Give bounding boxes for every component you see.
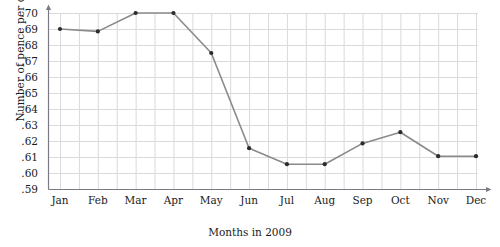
x-tick-label: May [200,194,223,206]
x-tick-label: Oct [391,194,410,206]
x-tick-label: Sep [352,194,372,206]
x-tick-label: Jun [240,194,258,206]
data-point-marker [436,154,440,158]
line-chart: Number of pence per dollar .70.69.68.67.… [0,0,500,247]
data-point-marker [474,154,478,158]
y-axis-arrow-icon [46,5,51,11]
x-tick-label: Apr [164,194,183,206]
data-point-marker [134,11,138,15]
data-point-marker [96,29,100,33]
data-point-marker [247,146,251,150]
data-point-marker [360,141,364,145]
x-tick-label: Jul [280,194,294,206]
data-point-marker [58,27,62,31]
x-tick-label: Feb [88,194,108,206]
x-axis-title: Months in 2009 [0,226,500,238]
x-tick-label: Jan [51,194,68,206]
data-point-marker [285,162,289,166]
plot-area [0,0,500,247]
x-tick-label: Mar [125,194,147,206]
data-point-marker [398,130,402,134]
data-point-marker [171,11,175,15]
x-tick-label: Nov [427,194,448,206]
data-point-marker [323,162,327,166]
x-tick-label: Dec [466,194,487,206]
data-point-marker [209,51,213,55]
horizontal-gridlines [48,14,478,190]
x-axis-arrow-icon [486,187,492,192]
x-tick-label: Aug [314,194,335,206]
vertical-gridlines [61,13,477,189]
